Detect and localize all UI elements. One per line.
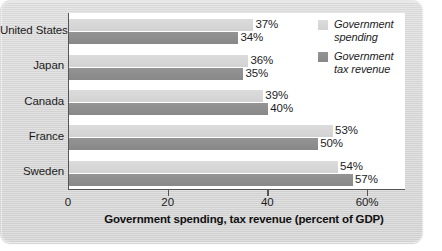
legend-label: Government tax revenue (334, 50, 394, 75)
legend-label: Government spending (334, 18, 394, 43)
x-axis-title: Government spending, tax revenue (percen… (68, 213, 420, 225)
category-label-canada: Canada (0, 95, 64, 107)
value-label: 35% (245, 67, 268, 79)
value-label: 40% (270, 102, 293, 114)
x-tick-label-40: 40 (261, 196, 274, 208)
value-label: 34% (240, 31, 263, 43)
value-label: 57% (355, 173, 378, 185)
x-tick-label-20: 20 (161, 196, 174, 208)
bar-canada-spending (69, 90, 263, 102)
value-label: 54% (340, 160, 363, 172)
bar-japan-spending (69, 55, 248, 67)
legend-swatch-revenue-icon (318, 52, 328, 62)
category-label-france: France (0, 130, 64, 142)
legend-item-revenue: Government tax revenue (318, 50, 394, 75)
bar-united-states-spending (69, 19, 253, 31)
value-label: 50% (320, 137, 343, 149)
chart-legend: Government spendingGovernment tax revenu… (318, 18, 394, 82)
bar-canada-revenue (69, 103, 268, 115)
category-label-japan: Japan (0, 59, 64, 71)
legend-item-spending: Government spending (318, 18, 394, 43)
x-tick-label-60: 60% (356, 196, 379, 208)
bar-france-revenue (69, 138, 318, 150)
value-label: 37% (255, 18, 278, 30)
value-label: 53% (335, 124, 358, 136)
category-label-united-states: United States (0, 24, 64, 36)
category-label-sweden: Sweden (0, 165, 64, 177)
bar-japan-revenue (69, 68, 243, 80)
value-label: 36% (250, 54, 273, 66)
value-label: 39% (265, 89, 288, 101)
bar-united-states-revenue (69, 32, 238, 44)
bar-france-spending (69, 125, 333, 137)
chart-screenshot: United StatesJapanCanadaFranceSweden 37%… (0, 0, 442, 251)
legend-swatch-spending-icon (318, 20, 328, 30)
x-tick-label-0: 0 (65, 196, 71, 208)
bar-sweden-revenue (69, 174, 353, 186)
bar-sweden-spending (69, 161, 338, 173)
